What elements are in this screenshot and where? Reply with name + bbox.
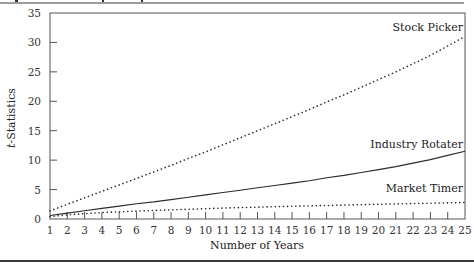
clipped-title-fragment bbox=[15, 0, 143, 2]
x-tick-label: 24 bbox=[441, 224, 455, 236]
series-label-industry-rotater: Industry Rotater bbox=[370, 138, 463, 151]
x-tick-label: 10 bbox=[199, 224, 212, 236]
y-tick-label: 30 bbox=[28, 36, 41, 48]
x-tick-label: 12 bbox=[234, 224, 247, 236]
x-tick-label: 25 bbox=[458, 224, 471, 236]
x-tick-label: 4 bbox=[99, 224, 106, 236]
y-axis-title: t-Statistics bbox=[5, 88, 18, 148]
x-tick-label: 6 bbox=[133, 224, 140, 236]
x-tick-label: 16 bbox=[303, 224, 317, 236]
y-tick-label: 5 bbox=[34, 184, 41, 196]
x-tick-label: 19 bbox=[355, 224, 368, 236]
y-tick-label: 15 bbox=[28, 125, 41, 137]
x-tick-label: 13 bbox=[251, 224, 264, 236]
y-axis-title-rest: -Statistics bbox=[5, 88, 18, 144]
series-label-stock-picker: Stock Picker bbox=[393, 21, 464, 34]
x-tick-label: 23 bbox=[424, 224, 437, 236]
chart: 05101520253035 1234567891011121314151617… bbox=[0, 0, 474, 265]
y-tick-label: 35 bbox=[28, 7, 41, 19]
x-axis: 1234567891011121314151617181920212223242… bbox=[47, 212, 472, 236]
y-tick-label: 10 bbox=[28, 154, 41, 166]
x-tick-label: 5 bbox=[116, 224, 123, 236]
x-tick-label: 2 bbox=[64, 224, 71, 236]
x-tick-label: 21 bbox=[389, 224, 402, 236]
x-tick-label: 8 bbox=[168, 224, 175, 236]
x-tick-label: 15 bbox=[285, 224, 298, 236]
x-tick-label: 7 bbox=[150, 224, 157, 236]
y-axis: 05101520253035 bbox=[28, 7, 57, 225]
x-tick-label: 22 bbox=[406, 224, 419, 236]
x-tick-label: 20 bbox=[372, 224, 385, 236]
y-tick-label: 20 bbox=[28, 95, 41, 107]
x-tick-label: 18 bbox=[337, 224, 350, 236]
y-tick-label: 0 bbox=[34, 213, 41, 225]
y-tick-label: 25 bbox=[28, 66, 41, 78]
x-axis-title: Number of Years bbox=[210, 239, 304, 252]
series-label-market-timer: Market Timer bbox=[386, 182, 464, 195]
x-tick-label: 14 bbox=[268, 224, 282, 236]
x-tick-label: 1 bbox=[47, 224, 54, 236]
x-tick-label: 3 bbox=[81, 224, 88, 236]
x-tick-label: 11 bbox=[216, 224, 229, 236]
x-tick-label: 17 bbox=[320, 224, 333, 236]
x-tick-label: 9 bbox=[185, 224, 192, 236]
